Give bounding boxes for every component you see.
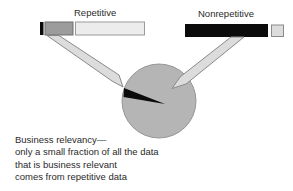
caption-line-2: only a small fraction of all the data xyxy=(15,146,159,158)
repetitive-bar-black-segment xyxy=(40,22,44,35)
nonrepetitive-bar-label: Nonrepetitive xyxy=(198,8,254,19)
nonrepetitive-bar-light-segment xyxy=(272,25,284,37)
caption-text: Business relevancy— only a small fractio… xyxy=(15,134,159,184)
caption-line-4: comes from repetitive data xyxy=(15,171,159,183)
caption-line-3: that is business relevant xyxy=(15,159,159,171)
caption-line-1: Business relevancy— xyxy=(15,134,159,146)
repetitive-bar-light-segment xyxy=(76,22,145,35)
nonrepetitive-bar xyxy=(185,24,284,37)
nonrepetitive-callout-wedge xyxy=(172,37,244,89)
repetitive-bar xyxy=(40,22,145,35)
business-relevancy-diagram: Repetitive Nonrepetitive Business releva… xyxy=(0,0,293,191)
repetitive-callout-wedge xyxy=(47,36,123,88)
repetitive-bar-label: Repetitive xyxy=(74,7,116,18)
repetitive-bar-gray-segment xyxy=(45,22,73,35)
nonrepetitive-bar-black-segment xyxy=(185,24,268,37)
